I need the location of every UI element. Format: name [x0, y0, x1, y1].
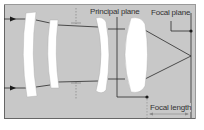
focal-length-label: Focal length: [150, 103, 191, 112]
lens-element-4: [125, 18, 148, 93]
principal-plane-label: Principal plane: [90, 7, 139, 16]
focal-plane-label: Focal plane: [151, 8, 190, 17]
principal-point-dot: [145, 95, 148, 98]
focal-point-dot: [189, 29, 192, 32]
